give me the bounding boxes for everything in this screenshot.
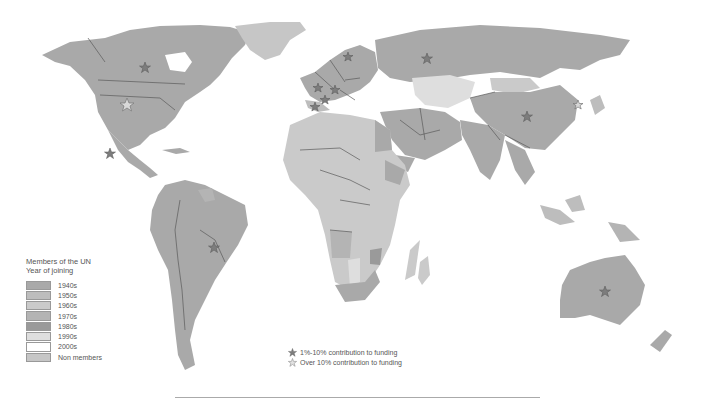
funding-legend-item-over-10: Over 10% contribution to funding (288, 357, 402, 367)
legend-label: Non members (58, 354, 102, 361)
south-america (150, 180, 248, 370)
legend-item-1940s: 1940s (26, 280, 136, 290)
funding-legend-label: Over 10% contribution to funding (300, 359, 402, 366)
star-filled-icon (288, 348, 297, 357)
legend-items: 1940s 1950s 1960s 1970s 1980s 1990s 2000… (26, 280, 136, 362)
legend-label: 1990s (58, 333, 77, 340)
legend-item-2000s: 2000s (26, 342, 136, 352)
legend-item-1960s: 1960s (26, 301, 136, 311)
bottom-rule (175, 397, 540, 398)
north-america (42, 22, 306, 178)
star-mexico (105, 148, 116, 159)
legend-label: 2000s (58, 343, 77, 350)
legend-item-1990s: 1990s (26, 331, 136, 341)
legend-swatch (26, 311, 51, 320)
legend-swatch (26, 281, 51, 290)
legend-swatch (26, 322, 51, 331)
membership-legend: Members of the UN Year of joining 1940s … (26, 257, 136, 362)
funding-legend: 1%-10% contribution to funding Over 10% … (288, 347, 402, 367)
legend-label: 1950s (58, 292, 77, 299)
legend-swatch (26, 291, 51, 300)
legend-swatch (26, 301, 51, 310)
legend-item-1980s: 1980s (26, 321, 136, 331)
legend-title-line1: Members of the UN (26, 257, 136, 266)
madagascar (418, 256, 430, 285)
legend-swatch (26, 353, 51, 362)
legend-label: 1970s (58, 313, 77, 320)
asia (460, 85, 605, 185)
legend-item-1950s: 1950s (26, 290, 136, 300)
legend-label: 1940s (58, 282, 77, 289)
legend-item-non-members: Non members (26, 352, 136, 362)
legend-label: 1960s (58, 302, 77, 309)
legend-swatch (26, 332, 51, 341)
europe (300, 45, 378, 112)
oceania (540, 195, 672, 352)
russia (375, 25, 630, 82)
legend-title-line2: Year of joining (26, 266, 136, 275)
legend-label: 1980s (58, 323, 77, 330)
funding-legend-item-1-10: 1%-10% contribution to funding (288, 347, 402, 357)
star-outline-icon (288, 358, 297, 367)
legend-swatch (26, 342, 51, 351)
legend-item-1970s: 1970s (26, 311, 136, 321)
funding-legend-label: 1%-10% contribution to funding (300, 349, 397, 356)
